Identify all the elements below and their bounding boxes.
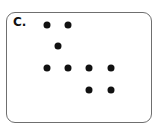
dot-7 [108, 65, 115, 72]
dot-1 [44, 22, 51, 29]
dot-4 [44, 65, 51, 72]
dot-8 [86, 87, 93, 94]
dot-9 [108, 87, 115, 94]
dot-3 [55, 43, 62, 50]
dot-2 [65, 22, 72, 29]
dot-6 [86, 65, 93, 72]
dot-5 [65, 65, 72, 72]
option-panel-c [6, 12, 152, 123]
panel-label: C. [13, 15, 26, 29]
